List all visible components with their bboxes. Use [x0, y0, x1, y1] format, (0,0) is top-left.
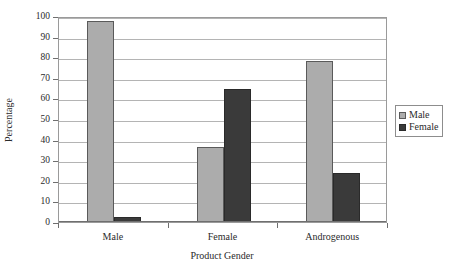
y-axis-tick-label: 0 — [8, 218, 50, 228]
bar-androgenous-male — [306, 61, 333, 222]
y-axis-tick-label: 30 — [8, 156, 50, 166]
legend-swatch-icon — [399, 124, 406, 131]
legend-item-male: Male — [399, 109, 438, 121]
bar-female-male — [197, 147, 224, 222]
plot-area — [58, 17, 387, 223]
legend-swatch-icon — [399, 112, 406, 119]
y-axis-tick-label: 70 — [8, 74, 50, 84]
y-axis-tick-label: 50 — [8, 115, 50, 125]
y-axis-tick-label: 40 — [8, 136, 50, 146]
x-axis-tick — [387, 223, 388, 228]
x-axis-tick — [168, 223, 169, 228]
legend-item-female: Female — [399, 121, 438, 133]
x-axis-category-label: Male — [103, 231, 124, 242]
y-axis-tick-label: 90 — [8, 33, 50, 43]
x-axis-category-label: Female — [208, 231, 237, 242]
x-axis-title: Product Gender — [190, 250, 253, 261]
x-axis-tick — [277, 223, 278, 228]
x-axis-category-label: Androgenous — [305, 231, 359, 242]
chart-legend: MaleFemale — [395, 105, 443, 137]
bar-chart-figure: Percentage 0102030405060708090100 MaleFe… — [0, 0, 457, 271]
bar-male-male — [87, 21, 114, 222]
y-axis-tick-label: 80 — [8, 53, 50, 63]
y-axis-tick-label: 10 — [8, 198, 50, 208]
x-axis-baseline — [59, 221, 386, 222]
gridline — [59, 18, 386, 19]
y-axis-tick-label: 60 — [8, 95, 50, 105]
bar-female-female — [224, 89, 251, 222]
x-axis-tick — [58, 223, 59, 228]
y-axis-tick-label: 20 — [8, 177, 50, 187]
legend-label: Female — [409, 122, 438, 132]
bar-androgenous-female — [333, 173, 360, 222]
y-axis-tick-label: 100 — [8, 12, 50, 22]
legend-label: Male — [409, 110, 430, 120]
